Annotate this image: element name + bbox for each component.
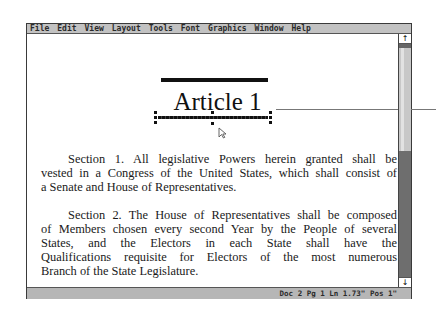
paragraph-section-2[interactable]: Section 2. The House of Representatives … [41, 208, 397, 278]
callout-leader-line [276, 109, 436, 110]
text-line: Section 1. All legislative Powers herein… [41, 152, 397, 166]
text-line: a Senate and House of Representatives. [41, 180, 397, 194]
scroll-down-arrow-icon[interactable]: ↓ [399, 277, 411, 287]
selection-handle-mid-left[interactable] [154, 116, 157, 119]
text-line: Section 2. The House of Representatives … [41, 208, 397, 222]
selection-handle-bottom-center[interactable] [211, 122, 214, 125]
vertical-scrollbar[interactable]: ↑ ↓ [398, 34, 411, 287]
menu-bar: File Edit View Layout Tools Font Graphic… [27, 24, 411, 34]
status-bar: Doc 2 Pg 1 Ln 1.73" Pos 1" [27, 287, 411, 299]
cursor-position-status: Doc 2 Pg 1 Ln 1.73" Pos 1" [280, 288, 397, 299]
paragraph-section-1[interactable]: Section 1. All legislative Powers herein… [41, 152, 397, 194]
text-line: vested in a Congress of the United State… [41, 166, 397, 180]
document-title[interactable]: Article 1 [161, 88, 274, 116]
scroll-track-viewed[interactable] [399, 48, 411, 151]
menu-tools[interactable]: Tools [149, 24, 173, 33]
text-line: Branch of the State Legislature. [41, 264, 397, 278]
selection-handle-mid-right[interactable] [269, 116, 272, 119]
menu-view[interactable]: View [85, 24, 104, 33]
text-line: States, and the Electors in each State s… [41, 236, 397, 250]
document-area[interactable]: Article 1 Section 1. All legislative Pow… [27, 34, 398, 287]
menu-window[interactable]: Window [255, 24, 284, 33]
selection-handle-top-left[interactable] [154, 111, 157, 114]
selection-handle-top-center[interactable] [211, 111, 214, 114]
mouse-pointer-icon [218, 127, 227, 139]
text-line: of Members chosen every second Year by t… [41, 222, 397, 236]
selection-handle-bottom-right[interactable] [269, 121, 272, 124]
selected-graphic-line[interactable] [158, 116, 268, 119]
menu-help[interactable]: Help [292, 24, 311, 33]
menu-file[interactable]: File [30, 24, 49, 33]
word-processor-window: File Edit View Layout Tools Font Graphic… [26, 23, 412, 299]
menu-layout[interactable]: Layout [112, 24, 141, 33]
menu-edit[interactable]: Edit [57, 24, 76, 33]
menu-graphics[interactable]: Graphics [208, 24, 247, 33]
text-line: Qualifications requisite for Electors of… [41, 250, 397, 264]
selection-handle-top-right[interactable] [269, 111, 272, 114]
menu-font[interactable]: Font [181, 24, 200, 33]
scroll-up-arrow-icon[interactable]: ↑ [399, 34, 411, 44]
horizontal-rule [161, 78, 268, 82]
selection-handle-bottom-left[interactable] [154, 121, 157, 124]
